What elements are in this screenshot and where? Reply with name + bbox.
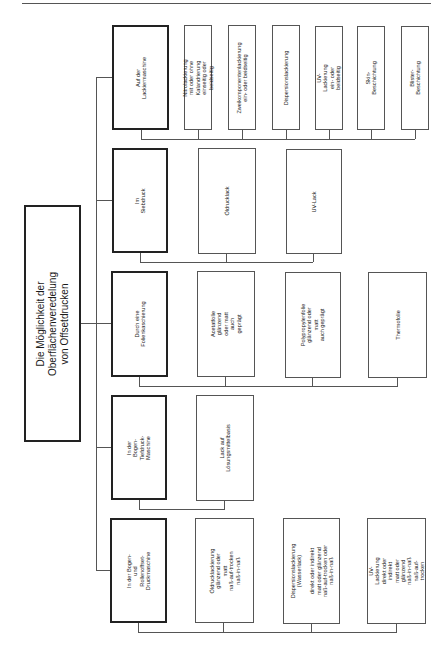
category-label: Durch eine Folienkaschierung <box>133 301 146 346</box>
diagram-title-box: Die Möglichkeit der Oberflächenveredelun… <box>24 205 81 442</box>
connector-row3-bus <box>139 386 398 387</box>
item-label: Öldrucklackierung glänzend oder matt naß… <box>208 548 240 593</box>
item-label: UV-Lack <box>311 191 317 212</box>
connector-tick <box>139 377 140 386</box>
connector-tick <box>226 254 227 262</box>
item-polypropylenfolie: Polypropylenfolie glänzend oder matt auc… <box>285 272 341 378</box>
connector-row3-branch <box>96 323 111 324</box>
category-tiefdruck: In der Bogen-Tiefdruck-Maschine <box>111 395 167 500</box>
connector-row2-bus <box>140 262 313 263</box>
connector-row2-branch <box>96 200 112 201</box>
connector-tick <box>329 130 330 139</box>
connector-tick <box>396 624 397 632</box>
category-lackiermaschine: Auf der Lackiermaschine <box>112 25 169 130</box>
item-label: Skin-Beschichtung <box>365 61 378 95</box>
connector-row1-bus <box>141 139 415 140</box>
item-label: Blister-Beschichtung <box>409 61 422 95</box>
connector-tick <box>198 130 199 139</box>
connector-tick <box>138 623 139 632</box>
connector-tick <box>225 377 226 386</box>
connector-tick <box>139 500 140 509</box>
category-offset-druckmaschine: In der Bogen- und Rollenoffset-Druckmasc… <box>110 518 167 623</box>
connector-tick <box>312 378 313 386</box>
item-label: Dispersionslackierung (Wasserlack) direk… <box>289 544 334 599</box>
connector-row1-branch <box>96 77 112 78</box>
connector-title <box>81 323 96 324</box>
item-label: Thermofolie <box>394 310 400 340</box>
connector-row4-branch <box>96 447 111 448</box>
item-dispersionslackierung: Dispersionslackierung <box>272 25 300 130</box>
connector-tick <box>223 623 224 632</box>
connector-tick <box>415 130 416 139</box>
connector-tick <box>224 501 225 509</box>
item-zweikomponentenlackierung: Zweikomponentenlackierung ein- oder beid… <box>228 25 256 130</box>
connector-row5-bus <box>138 632 397 633</box>
category-label: Im Siebdruck <box>134 188 147 214</box>
category-label: In der Bogen-Tiefdruck-Maschine <box>126 435 152 461</box>
item-uv-lack: UV-Lack <box>286 149 342 254</box>
connector-tick <box>371 130 372 139</box>
item-nitrolackierung: Nitrolackierung mit oder ohne Kalandrier… <box>184 25 212 130</box>
item-skin-beschichtung: Skin-Beschichtung <box>357 26 385 130</box>
item-oeldrucklack: Öldrucklack <box>198 148 256 254</box>
item-label: UV-Lackierung ein- oder beidseitig <box>316 64 342 91</box>
connector-tick <box>311 624 312 632</box>
item-thermofolie: Thermofolie <box>368 272 427 378</box>
item-dispersionslackierung-wasserlack: Dispersionslackierung (Wasserlack) direk… <box>283 518 340 624</box>
category-siebdruck: Im Siebdruck <box>112 148 168 253</box>
connector-row5-branch <box>96 570 110 571</box>
item-uv-lackierung: UV-Lackierung ein- oder beidseitig <box>315 26 343 130</box>
connector-tick <box>242 130 243 139</box>
item-acetatfolie: Acetatfolie glänzend oder matt auch gepr… <box>197 271 255 377</box>
connector-tick <box>141 130 142 139</box>
item-blister-beschichtung: Blister-Beschichtung <box>401 26 429 130</box>
page-header-rule <box>22 3 431 4</box>
category-label: In der Bogen- und Rollenoffset-Druckmasc… <box>126 551 152 590</box>
connector-tick <box>397 378 398 386</box>
connector-row4-bus <box>139 509 225 510</box>
item-lack-loesungsmittelbasis: Lack auf Lösungsmittelbasis <box>196 395 254 501</box>
item-label: Polypropylenfolie glänzend oder matt auc… <box>300 304 326 347</box>
connector-tick <box>286 130 287 139</box>
connector-tick <box>313 254 314 262</box>
diagram-title: Die Möglichkeit der Oberflächenveredelun… <box>35 272 71 376</box>
item-label: Acetatfolie glänzend oder matt auch gepr… <box>210 310 242 338</box>
connector-trunk <box>96 77 97 571</box>
item-label: Nitrolackierung mit oder ohne Kalandrier… <box>182 59 214 96</box>
item-uv-lackierung-offset: UV-Lackierung direkt oder indirekt matt … <box>367 518 426 624</box>
connector-tick <box>140 253 141 262</box>
category-folienkaschierung: Durch eine Folienkaschierung <box>111 271 168 377</box>
item-label: Zweikomponentenlackierung ein- oder beid… <box>236 42 249 113</box>
item-label: Lack auf Lösungsmittelbasis <box>219 424 232 472</box>
item-label: UV-Lackierung direkt oder indirekt matt … <box>368 557 426 586</box>
item-label: Öldrucklack <box>224 186 230 215</box>
category-label: Auf der Lackiermaschine <box>134 57 147 99</box>
item-label: Dispersionslackierung <box>283 50 289 105</box>
item-oeldrucklackierung: Öldrucklackierung glänzend oder matt naß… <box>195 518 254 623</box>
